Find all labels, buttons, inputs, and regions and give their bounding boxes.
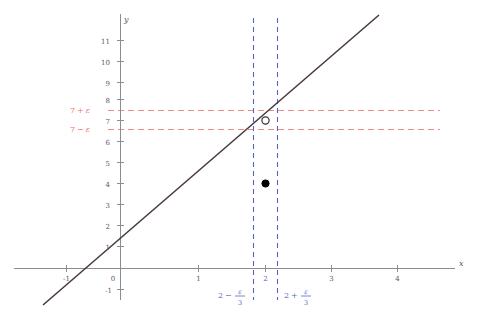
delta-left-base: 2	[218, 291, 223, 300]
delta-left-label: 2− ε 3	[218, 288, 245, 307]
delta-right-sign: +	[291, 291, 298, 300]
x-label-4: 4	[395, 275, 400, 283]
y-label-3: 3	[106, 202, 110, 210]
x-tick-labels-group: -1 0 1 2 3 4	[63, 275, 400, 283]
open-circle-marker	[262, 117, 269, 124]
epsilon-lower-label: 7−ε	[70, 125, 90, 134]
x-label-1: 1	[196, 275, 200, 283]
epsilon-delta-limit-plot: 11 10 9 8 7 6 5 4 3 2 1 -1 -1 0 1 2 3 4 …	[0, 0, 482, 328]
delta-right-base: 2	[284, 291, 289, 300]
svg-text:7−ε: 7−ε	[70, 125, 90, 134]
y-label-4: 4	[106, 181, 111, 189]
y-axis-label: y	[123, 15, 129, 24]
epsilon-lower-eps: ε	[86, 125, 90, 134]
epsilon-upper-label: 7+ε	[70, 106, 90, 115]
y-label-7: 7	[106, 118, 110, 126]
epsilon-band-group	[108, 111, 440, 130]
y-label-1: 1	[106, 244, 110, 252]
svg-text:2+: 2+	[284, 291, 298, 300]
axes-group	[14, 14, 455, 300]
delta-right-label: 2+ ε 3	[284, 288, 311, 307]
y-label-9: 9	[106, 80, 110, 88]
y-tick-labels-group: 11 10 9 8 7 6 5 4 3 2 1 -1	[101, 38, 112, 295]
chart-canvas: 11 10 9 8 7 6 5 4 3 2 1 -1 -1 0 1 2 3 4 …	[0, 0, 482, 328]
delta-band-group	[254, 18, 278, 300]
y-label-10: 10	[101, 59, 110, 67]
svg-text:2−: 2−	[218, 291, 232, 300]
y-label-11: 11	[101, 38, 110, 46]
y-label-2: 2	[106, 223, 110, 231]
x-label-2: 2	[263, 275, 267, 283]
epsilon-lower-sign: −	[77, 125, 84, 134]
x-label-0: 0	[111, 275, 115, 283]
epsilon-upper-sign: +	[77, 106, 84, 115]
epsilon-upper-base: 7	[70, 106, 75, 115]
y-label-8: 8	[106, 97, 110, 105]
delta-left-numerator: ε	[238, 288, 242, 296]
x-label-neg1: -1	[63, 275, 70, 283]
epsilon-upper-eps: ε	[86, 106, 90, 115]
filled-dot-marker	[262, 180, 269, 187]
svg-text:7+ε: 7+ε	[70, 106, 90, 115]
x-label-3: 3	[329, 275, 333, 283]
delta-left-denominator: 3	[238, 299, 242, 307]
epsilon-lower-base: 7	[70, 125, 75, 134]
delta-right-numerator: ε	[304, 288, 308, 296]
y-label-6: 6	[106, 139, 111, 147]
y-label-neg1: -1	[105, 287, 112, 295]
delta-left-sign: −	[225, 291, 232, 300]
x-axis-label: x	[459, 259, 464, 268]
function-line	[43, 15, 379, 305]
y-label-5: 5	[106, 160, 110, 168]
delta-right-denominator: 3	[304, 299, 308, 307]
